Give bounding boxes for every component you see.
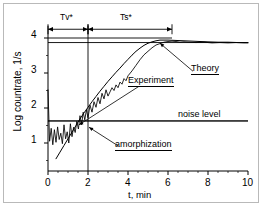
ts-span-label: Ts* [120,13,132,22]
noise-level-annotation-label: noise level [178,110,221,119]
span-arrow-end-1 [167,27,172,31]
chart-canvas [0,0,263,207]
span-arrow-end-0 [83,27,88,31]
leader-theory-label [160,43,193,71]
tv-span-label: Tv* [60,13,73,22]
experiment-annotation-label: Experiment [128,76,174,87]
y-tick-label-3: 3 [31,65,37,75]
span-arrow-start-1 [88,27,93,31]
y-tick-label-4: 4 [31,30,37,40]
figure-container: Log countrate, 1/s 4 3 2 1 0 2 4 6 8 10 … [0,0,263,207]
x-tick-label-4: 4 [125,178,131,188]
series-experiment [48,41,248,145]
x-tick-label-6: 6 [165,178,171,188]
y-tick-label-2: 2 [31,100,37,110]
y-tick-label-1: 1 [31,135,37,145]
leader-arrow-amorphization-label [89,127,93,131]
amorphization-annotation-label: amorphization [115,140,172,151]
x-tick-label-8: 8 [205,178,211,188]
x-axis-title: t, min [128,190,151,200]
leader-amorphization-label [89,127,118,146]
span-arrow-start-0 [48,27,53,31]
y-axis-title: Log countrate, 1/s [12,37,23,147]
x-tick-label-2: 2 [85,178,91,188]
x-tick-label-0: 0 [45,178,51,188]
theory-annotation-label: Theory [191,64,219,75]
x-tick-label-10: 10 [242,178,253,188]
